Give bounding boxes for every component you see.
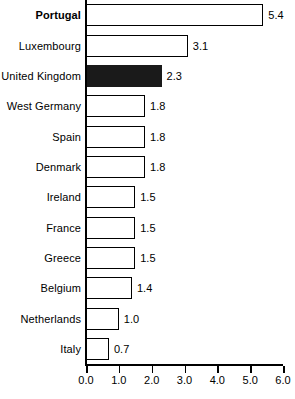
bar-value-label: 1.0 [124,313,139,325]
x-tick-label: 1.0 [111,374,126,387]
bar-chart: Portugal5.4Luxembourg3.1United Kingdom2.… [0,0,295,399]
bar [86,217,135,239]
category-label: Belgium [41,282,81,294]
bar [86,186,135,208]
bar-value-label: 5.4 [268,9,283,21]
bar-row: Portugal5.4 [0,1,295,29]
bar-value-label: 1.5 [140,191,155,203]
category-label: Ireland [47,191,81,203]
x-tick [217,366,219,373]
bar-value-label: 1.8 [150,161,165,173]
bar-row: Ireland1.5 [0,183,295,211]
x-tick-label: 4.0 [210,374,225,387]
x-tick-label: 0.0 [78,374,93,387]
x-tick [119,366,121,373]
plot-area: Portugal5.4Luxembourg3.1United Kingdom2.… [0,0,295,399]
category-label: West Germany [7,100,81,112]
bar-row: Denmark1.8 [0,153,295,181]
category-axis-line [85,0,87,366]
category-label: Italy [60,343,81,355]
bar-row: Spain1.8 [0,123,295,151]
bar [86,126,145,148]
x-tick [250,366,252,373]
bar-row: West Germany1.8 [0,92,295,120]
bar [86,338,109,360]
bar [86,95,145,117]
bar-row: Netherlands1.0 [0,305,295,333]
x-tick-label: 3.0 [177,374,192,387]
bar-value-label: 3.1 [193,40,208,52]
bar-value-label: 1.5 [140,222,155,234]
x-tick [185,366,187,373]
category-label: Portugal [36,9,81,21]
category-label: United Kingdom [1,70,81,82]
bar-value-label: 1.4 [137,282,152,294]
bar-row: Italy0.7 [0,335,295,363]
bar-value-label: 0.7 [114,343,129,355]
category-label: Denmark [36,161,81,173]
bar [86,35,188,57]
bar [86,4,263,26]
x-tick-label: 6.0 [275,374,290,387]
bar-row: France1.5 [0,214,295,242]
bar-rows: Portugal5.4Luxembourg3.1United Kingdom2.… [0,0,295,364]
category-label: Greece [44,252,81,264]
bar-row: Luxembourg3.1 [0,32,295,60]
bar-row: Belgium1.4 [0,274,295,302]
category-label: Luxembourg [19,40,81,52]
category-label: Netherlands [21,313,81,325]
category-label: Spain [52,131,81,143]
x-tick [152,366,154,373]
x-tick [86,366,88,373]
bar-value-label: 2.3 [167,70,182,82]
bar [86,65,162,87]
bar [86,247,135,269]
bar [86,308,119,330]
x-tick [283,366,285,373]
bar [86,156,145,178]
bar-row: United Kingdom2.3 [0,62,295,90]
bar [86,277,132,299]
x-tick-label: 2.0 [144,374,159,387]
bar-value-label: 1.5 [140,252,155,264]
x-axis-ticks [0,366,295,374]
bar-row: Greece1.5 [0,244,295,272]
bar-value-label: 1.8 [150,131,165,143]
bar-value-label: 1.8 [150,100,165,112]
x-tick-label: 5.0 [243,374,258,387]
x-axis-tick-labels: 0.01.02.03.04.05.06.0 [0,374,295,388]
category-label: France [46,222,81,234]
